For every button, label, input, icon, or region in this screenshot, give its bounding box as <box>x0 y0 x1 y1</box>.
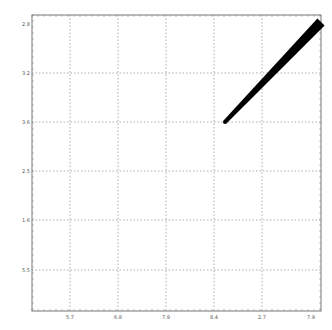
y-tick-label: 2.8 <box>22 21 30 27</box>
y-tick-label: 3.2 <box>22 70 30 76</box>
data-line <box>224 19 325 124</box>
x-tick-label: 7.9 <box>307 314 315 320</box>
grid-lines <box>32 15 321 311</box>
y-axis-ticks: 2.83.23.62.51.65.5 <box>22 21 30 273</box>
y-tick-label: 5.5 <box>22 267 30 273</box>
plot-frame <box>32 15 321 311</box>
line-chart: 5.76.87.98.42.77.9 2.83.23.62.51.65.5 <box>0 0 332 330</box>
y-tick-label: 3.6 <box>22 119 30 125</box>
data-series <box>223 19 325 124</box>
line-start-cap <box>223 120 227 124</box>
x-tick-label: 8.4 <box>210 314 218 320</box>
x-axis-ticks: 5.76.87.98.42.77.9 <box>66 314 315 320</box>
x-tick-label: 2.7 <box>258 314 266 320</box>
x-tick-label: 7.9 <box>162 314 170 320</box>
x-tick-label: 5.7 <box>66 314 74 320</box>
y-tick-label: 2.5 <box>22 168 30 174</box>
y-tick-label: 1.6 <box>22 217 30 223</box>
x-tick-label: 6.8 <box>114 314 122 320</box>
